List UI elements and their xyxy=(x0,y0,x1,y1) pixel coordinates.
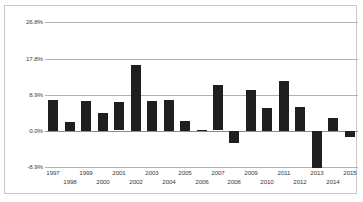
gridline xyxy=(45,22,358,23)
x-axis-tick-label: 1998 xyxy=(59,178,81,185)
x-axis-tick-label: 2009 xyxy=(240,169,262,176)
x-axis-tick-label: 2015 xyxy=(339,169,361,176)
x-axis-tick-label: 2004 xyxy=(158,178,180,185)
x-axis-tick-label: 2007 xyxy=(207,169,229,176)
bar xyxy=(197,130,207,131)
bar xyxy=(131,65,141,131)
bar xyxy=(279,81,289,131)
x-axis-tick-label: 1997 xyxy=(42,169,64,176)
y-axis-tick-label: -8.9% xyxy=(9,163,43,170)
bar xyxy=(246,90,256,131)
x-axis-tick-label: 1999 xyxy=(75,169,97,176)
y-axis: 26.8%17.8%8.9%0.0%-8.9% xyxy=(5,22,43,167)
x-axis-tick-label: 2014 xyxy=(322,178,344,185)
bar xyxy=(213,85,223,130)
x-axis-tick-label: 2001 xyxy=(108,169,130,176)
x-axis-tick-label: 2000 xyxy=(92,178,114,185)
bar xyxy=(164,100,174,131)
bar xyxy=(229,131,239,143)
plot-area xyxy=(45,22,358,167)
bar xyxy=(295,107,305,131)
y-axis-tick-label: 8.9% xyxy=(9,91,43,98)
y-axis-tick-label: 26.8% xyxy=(9,18,43,25)
x-axis-tick-label: 2013 xyxy=(306,169,328,176)
bar xyxy=(98,113,108,131)
bar xyxy=(180,121,190,131)
y-axis-tick-label: 17.8% xyxy=(9,55,43,62)
gridline xyxy=(45,59,358,60)
x-axis-tick-label: 2012 xyxy=(289,178,311,185)
x-axis-tick-label: 2010 xyxy=(256,178,278,185)
x-axis-tick-label: 2011 xyxy=(273,169,295,176)
x-axis-tick-label: 2005 xyxy=(174,169,196,176)
bar xyxy=(147,101,157,131)
x-axis-tick-label: 2002 xyxy=(125,178,147,185)
bar xyxy=(48,100,58,131)
x-axis-tick-label: 2003 xyxy=(141,169,163,176)
bar xyxy=(328,118,338,131)
x-axis-tick-label: 2006 xyxy=(191,178,213,185)
chart-frame: 26.8%17.8%8.9%0.0%-8.9% 1997199819992000… xyxy=(4,5,357,194)
x-axis: 1997199819992000200120022003200420052006… xyxy=(45,168,358,192)
y-axis-tick-label: 0.0% xyxy=(9,127,43,134)
x-axis-tick-label: 2008 xyxy=(223,178,245,185)
bar xyxy=(262,108,272,131)
bar xyxy=(81,101,91,131)
gridline xyxy=(45,95,358,96)
bar xyxy=(312,131,322,168)
bar xyxy=(114,102,124,130)
bar xyxy=(345,131,355,137)
bar xyxy=(65,122,75,131)
